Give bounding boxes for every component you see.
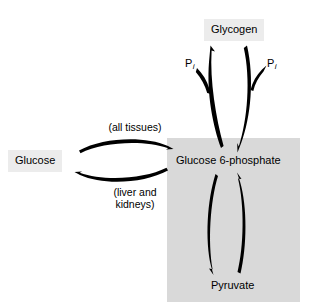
node-pyruvate: Pyruvate <box>211 279 254 292</box>
arrow-g6p-to-glycogen <box>208 46 223 149</box>
cofactor-pi-left: Pi <box>185 57 194 69</box>
annotation-liver-and-kidneys: (liver and kidneys) <box>95 186 175 210</box>
node-glucose-6-phosphate: Glucose 6-phosphate <box>176 154 281 167</box>
arrow-glucose-to-g6p <box>79 139 174 153</box>
node-glucose: Glucose <box>8 150 62 172</box>
metabolism-diagram: Glycogen Glucose Glucose 6-phosphate Pyr… <box>0 0 317 302</box>
annotation-liver-and-kidneys-line1: (liver and <box>95 186 175 198</box>
arrow-glycogen-to-g6p <box>237 46 251 153</box>
cofactor-pi-right-subscript: i <box>275 62 277 71</box>
cofactor-pi-right-symbol: P <box>267 57 274 69</box>
cofactor-pi-left-subscript: i <box>193 62 195 71</box>
arrow-g6p-to-glucose <box>75 168 169 182</box>
arrow-pi-right-branch <box>251 66 267 92</box>
cofactor-pi-right: Pi <box>267 57 276 69</box>
annotation-all-tissues: (all tissues) <box>95 121 175 133</box>
node-glycogen: Glycogen <box>204 19 264 41</box>
cofactor-pi-left-symbol: P <box>185 57 192 69</box>
annotation-liver-and-kidneys-line2: kidneys) <box>95 198 175 210</box>
